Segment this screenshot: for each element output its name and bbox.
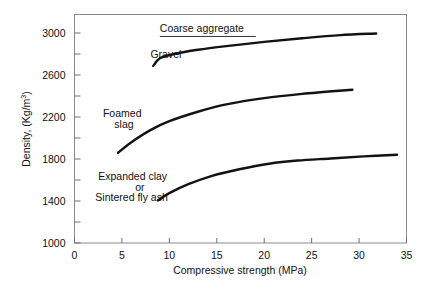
y-tick-label-1400: 1400	[42, 195, 66, 207]
x-tick-label-15: 15	[211, 249, 223, 261]
annotation-expanded-clay: Expanded clay	[98, 170, 168, 182]
y-axis-title-base: Density, (Kg/m	[20, 98, 32, 166]
x-tick-label-25: 25	[306, 249, 318, 261]
svg-text:Density, (Kg/m3): Density, (Kg/m3)	[20, 91, 32, 166]
density-vs-compressive-strength-chart: 05101520253035 100014001800220026003000 …	[0, 0, 432, 294]
x-tick-label-35: 35	[401, 249, 413, 261]
annotation-gravel: Gravel	[150, 48, 181, 60]
annotation-slag: slag	[114, 118, 133, 130]
x-tick-label-0: 0	[72, 249, 78, 261]
y-tick-label-2200: 2200	[42, 111, 66, 123]
x-tick-label-5: 5	[119, 249, 125, 261]
chart-figure: 05101520253035 100014001800220026003000 …	[0, 0, 432, 294]
annotation-sintered-fly-ash: Sintered fly ash	[95, 191, 168, 203]
x-axis-title: Compressive strength (MPa)	[173, 264, 307, 276]
x-tick-label-10: 10	[164, 249, 176, 261]
annotation-coarse-aggregate: Coarse aggregate	[160, 22, 244, 34]
y-tick-label-1800: 1800	[42, 153, 66, 165]
x-tick-label-30: 30	[353, 249, 365, 261]
x-tick-label-20: 20	[258, 249, 270, 261]
y-axis-title-tail: )	[20, 91, 32, 95]
y-tick-label-1000: 1000	[42, 237, 66, 249]
y-tick-label-3000: 3000	[42, 27, 66, 39]
y-axis-title: Density, (Kg/m3)	[20, 91, 32, 166]
y-tick-label-2600: 2600	[42, 69, 66, 81]
